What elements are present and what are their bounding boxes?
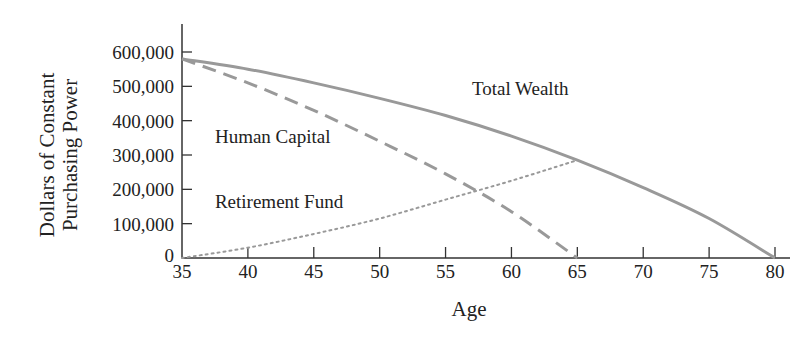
label-total-wealth: Total Wealth bbox=[472, 78, 569, 99]
curve-labels: Total WealthHuman CapitalRetirement Fund bbox=[215, 78, 569, 212]
y-tick-label: 500,000 bbox=[112, 76, 174, 97]
y-tick-label: 300,000 bbox=[112, 145, 174, 166]
label-human-capital: Human Capital bbox=[215, 126, 331, 147]
x-tick-label: 60 bbox=[502, 261, 521, 282]
y-axis-title-line: Purchasing Power bbox=[58, 79, 82, 231]
x-tick-label: 35 bbox=[173, 261, 192, 282]
y-tick-label: 200,000 bbox=[112, 179, 174, 200]
x-tick-label: 55 bbox=[436, 261, 455, 282]
y-tick-label: 100,000 bbox=[112, 214, 174, 235]
x-tick-label: 40 bbox=[238, 261, 257, 282]
x-axis-title: Age bbox=[452, 297, 487, 321]
y-axis: 0100,000200,000300,000400,000500,000600,… bbox=[112, 24, 192, 266]
x-axis: 35404550556065707580 bbox=[173, 247, 791, 282]
x-tick-label: 45 bbox=[304, 261, 323, 282]
label-retirement-fund: Retirement Fund bbox=[215, 191, 344, 212]
x-tick-label: 50 bbox=[370, 261, 389, 282]
x-tick-label: 65 bbox=[568, 261, 587, 282]
y-tick-label: 600,000 bbox=[112, 42, 174, 63]
x-tick-label: 80 bbox=[766, 261, 785, 282]
y-axis-title: Dollars of ConstantPurchasing Power bbox=[35, 73, 82, 238]
x-tick-label: 70 bbox=[634, 261, 653, 282]
y-axis-title-line: Dollars of Constant bbox=[35, 73, 59, 238]
chart: Dollars of ConstantPurchasing Power 0100… bbox=[0, 0, 805, 337]
x-tick-label: 75 bbox=[700, 261, 719, 282]
y-tick-label: 400,000 bbox=[112, 111, 174, 132]
